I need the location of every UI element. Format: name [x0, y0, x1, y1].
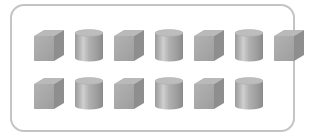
figure-frame [10, 4, 295, 132]
shape-row-1 [32, 28, 306, 62]
cube-shape [32, 76, 66, 110]
cylinder-shape [152, 28, 186, 62]
cube-shape [32, 28, 66, 62]
cylinder-shape [72, 28, 106, 62]
cylinder-shape [72, 76, 106, 110]
cube-shape [112, 76, 146, 110]
cube-shape [272, 28, 306, 62]
cube-shape [192, 76, 226, 110]
shape-row-2 [32, 76, 266, 110]
cylinder-shape [232, 76, 266, 110]
cylinder-shape [152, 76, 186, 110]
cube-shape [192, 28, 226, 62]
cube-shape [112, 28, 146, 62]
cylinder-shape [232, 28, 266, 62]
